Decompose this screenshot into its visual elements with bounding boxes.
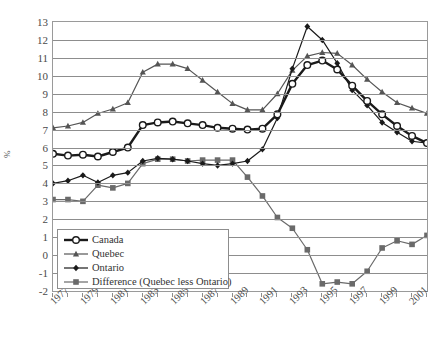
- data-point: [379, 245, 385, 251]
- data-point: [140, 69, 146, 75]
- data-point: [110, 185, 116, 191]
- legend-marker-icon: [63, 248, 89, 260]
- data-point: [184, 120, 191, 127]
- gridline: [53, 148, 427, 149]
- legend-item-difference: Difference (Quebec less Ontario): [63, 275, 224, 288]
- y-axis-tick-label: -1: [4, 268, 48, 279]
- legend-marker-icon: [63, 276, 89, 288]
- gridline: [53, 130, 427, 131]
- data-point: [409, 133, 416, 140]
- data-point: [289, 81, 296, 88]
- data-point: [409, 242, 415, 248]
- y-axis-tick-labels: -2-1012345678910111213: [0, 21, 48, 292]
- data-point: [394, 238, 400, 244]
- data-point: [65, 152, 72, 159]
- legend-item-quebec: Quebec: [63, 247, 224, 260]
- gridline: [53, 165, 427, 166]
- y-axis-tick-label: 7: [4, 124, 48, 135]
- data-point: [364, 98, 371, 105]
- y-axis-tick-label: 0: [4, 250, 48, 261]
- x-axis-tick-labels: 1977197919811983198519871989199119931995…: [52, 293, 428, 339]
- y-axis-tick-label: 2: [4, 214, 48, 225]
- y-axis-tick-label: 8: [4, 106, 48, 117]
- data-point: [80, 151, 87, 158]
- chart-legend: Canada Quebec Ontario Difference (Quebec…: [57, 229, 229, 289]
- data-point: [334, 279, 340, 285]
- gridline: [53, 40, 427, 41]
- data-point: [110, 149, 117, 156]
- data-point: [245, 174, 251, 180]
- data-point: [215, 157, 221, 163]
- data-point: [290, 225, 296, 231]
- y-axis-tick-label: 3: [4, 196, 48, 207]
- legend-label-ontario: Ontario: [92, 262, 124, 273]
- chart-container: % -2-1012345678910111213 197719791981198…: [0, 0, 448, 340]
- legend-label-difference: Difference (Quebec less Ontario): [92, 276, 231, 287]
- data-point: [424, 140, 427, 147]
- data-point: [125, 99, 131, 105]
- y-axis-tick-label: -2: [4, 286, 48, 297]
- legend-label-quebec: Quebec: [92, 248, 124, 259]
- data-point: [394, 123, 401, 130]
- data-point: [305, 247, 311, 253]
- data-point: [349, 82, 356, 89]
- data-point: [80, 172, 86, 178]
- series-canada: [53, 57, 427, 160]
- legend-swatch-canada: [63, 234, 89, 246]
- legend-marker-icon: [63, 234, 89, 246]
- data-point: [80, 119, 86, 125]
- data-point: [199, 122, 206, 129]
- y-axis-tick-label: 6: [4, 142, 48, 153]
- data-point: [334, 66, 341, 73]
- data-point: [154, 119, 161, 126]
- y-axis-tick-label: 4: [4, 178, 48, 189]
- data-point: [319, 281, 325, 287]
- legend-marker-icon: [63, 262, 89, 274]
- legend-item-canada: Canada: [63, 233, 224, 246]
- gridline: [53, 112, 427, 113]
- gridline: [53, 94, 427, 95]
- y-axis-tick-label: 5: [4, 160, 48, 171]
- legend-item-ontario: Ontario: [63, 261, 224, 274]
- data-point: [95, 153, 102, 160]
- legend-swatch-difference: [63, 276, 89, 288]
- data-point: [394, 99, 400, 105]
- gridline: [53, 76, 427, 77]
- y-axis-tick-label: 10: [4, 70, 48, 81]
- y-axis-tick-label: 11: [4, 52, 48, 63]
- data-point: [260, 193, 266, 199]
- legend-label-canada: Canada: [92, 234, 124, 245]
- gridline: [53, 219, 427, 220]
- gridline: [53, 58, 427, 59]
- gridline: [53, 201, 427, 202]
- data-point: [139, 122, 146, 129]
- data-point: [53, 151, 56, 158]
- series-quebec: [53, 49, 427, 130]
- data-point: [110, 172, 116, 178]
- legend-swatch-ontario: [63, 262, 89, 274]
- y-axis-tick-label: 9: [4, 88, 48, 99]
- y-axis-tick-label: 12: [4, 34, 48, 45]
- y-axis-tick-label: 1: [4, 232, 48, 243]
- legend-swatch-quebec: [63, 248, 89, 260]
- gridline: [53, 183, 427, 184]
- data-point: [304, 62, 311, 69]
- y-axis-tick-label: 13: [4, 17, 48, 28]
- data-point: [349, 281, 355, 287]
- series-line: [53, 52, 427, 127]
- data-point: [169, 118, 176, 125]
